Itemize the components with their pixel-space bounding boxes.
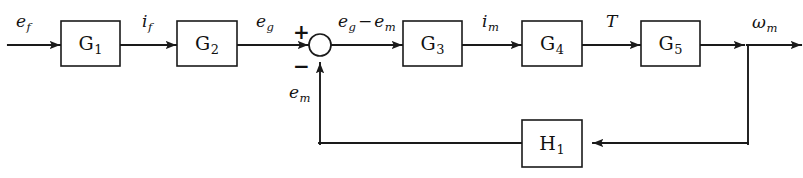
signal-label-im: im <box>482 13 499 33</box>
summing-junction-minus-sign: − <box>293 56 310 76</box>
signal-label-eg: eg <box>256 13 274 33</box>
block-diagram-canvas: G1 G2 G3 G4 G5 H1 ef if eg eg−em im T ωm… <box>0 0 803 178</box>
signal-label-error-eg-minus-em: eg−em <box>338 13 396 33</box>
signal-label-feedback-em: em <box>289 84 311 104</box>
block-label-g4: G4 <box>522 32 582 57</box>
summing-junction-circle[interactable] <box>309 34 331 56</box>
signal-label-input-ef: ef <box>16 13 31 33</box>
block-label-g3: G3 <box>403 32 462 57</box>
diagram-vector-layer <box>0 0 803 178</box>
block-label-g5: G5 <box>641 32 700 57</box>
signal-label-torque-t: T <box>606 13 618 33</box>
signal-label-if: if <box>142 13 152 33</box>
summing-junction-plus-sign: + <box>293 22 310 42</box>
block-label-g2: G2 <box>177 32 237 57</box>
signal-label-output-omega-m: ωm <box>752 14 777 34</box>
block-label-h1: H1 <box>522 132 582 157</box>
block-label-g1: G1 <box>61 32 120 57</box>
